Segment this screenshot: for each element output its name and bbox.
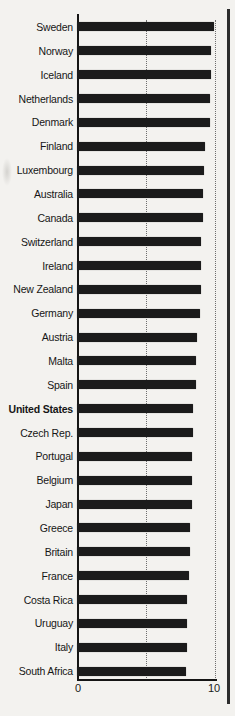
country-label: Finland	[0, 140, 77, 152]
chart-row: United States	[0, 397, 235, 421]
country-bar	[77, 404, 193, 413]
country-bar	[77, 166, 204, 175]
country-bar	[77, 46, 211, 55]
country-bar	[77, 94, 210, 103]
chart-row: Austria	[0, 325, 235, 349]
country-bar	[77, 333, 197, 342]
country-bar	[77, 667, 186, 676]
chart-row: Belgium	[0, 468, 235, 492]
country-label: United States	[0, 403, 77, 415]
country-bar	[77, 285, 201, 294]
country-label: South Africa	[0, 665, 77, 677]
chart-row: Sweden	[0, 15, 235, 39]
chart-row: Costa Rica	[0, 588, 235, 612]
country-bar	[77, 118, 210, 127]
country-label: Portugal	[0, 450, 77, 462]
country-bar	[77, 70, 211, 79]
country-label: Belgium	[0, 474, 77, 486]
country-bar	[77, 523, 190, 532]
chart-row: Finland	[0, 134, 235, 158]
country-label: Czech Rep.	[0, 427, 77, 439]
country-bar	[77, 643, 187, 652]
country-label: Uruguay	[0, 617, 77, 629]
country-label: Japan	[0, 498, 77, 510]
chart-row: Portugal	[0, 444, 235, 468]
chart-row: Greece	[0, 516, 235, 540]
country-label: Austria	[0, 331, 77, 343]
country-label: Canada	[0, 212, 77, 224]
country-label: Italy	[0, 641, 77, 653]
country-label: Luxembourg	[0, 164, 77, 176]
chart-row: Britain	[0, 540, 235, 564]
chart-row: Japan	[0, 492, 235, 516]
chart-row: Switzerland	[0, 230, 235, 254]
chart-row: Spain	[0, 373, 235, 397]
country-label: Norway	[0, 45, 77, 57]
x-axis-line	[77, 679, 217, 681]
country-bar	[77, 142, 205, 151]
bar-chart: Sweden Norway Iceland Netherlands Denmar…	[0, 0, 235, 716]
country-label: Denmark	[0, 116, 77, 128]
chart-row: Iceland	[0, 63, 235, 87]
country-bar	[77, 237, 201, 246]
country-label: Greece	[0, 522, 77, 534]
country-label: Netherlands	[0, 93, 77, 105]
chart-row: Italy	[0, 635, 235, 659]
country-bar	[77, 189, 203, 198]
country-bar	[77, 261, 201, 270]
chart-row: New Zealand	[0, 277, 235, 301]
x-tick-0: 0	[75, 682, 81, 694]
country-bar	[77, 213, 203, 222]
chart-row: Czech Rep.	[0, 421, 235, 445]
country-label: Sweden	[0, 21, 77, 33]
chart-row: France	[0, 564, 235, 588]
country-bar	[77, 428, 193, 437]
country-label: Costa Rica	[0, 594, 77, 606]
country-label: Spain	[0, 379, 77, 391]
country-bar	[77, 571, 189, 580]
country-bar	[77, 547, 190, 556]
country-label: Ireland	[0, 260, 77, 272]
x-tick-10: 10	[208, 682, 220, 694]
country-bar	[77, 452, 192, 461]
country-label: Australia	[0, 188, 77, 200]
chart-row: Denmark	[0, 110, 235, 134]
country-bar	[77, 356, 196, 365]
country-label: Iceland	[0, 69, 77, 81]
country-label: Malta	[0, 355, 77, 367]
chart-row: Germany	[0, 301, 235, 325]
page-edge-rule	[227, 9, 230, 704]
country-bar	[77, 500, 192, 509]
chart-row: Netherlands	[0, 87, 235, 111]
chart-row: Ireland	[0, 254, 235, 278]
country-label: Britain	[0, 546, 77, 558]
country-bar	[77, 619, 187, 628]
chart-row: Malta	[0, 349, 235, 373]
country-label: New Zealand	[0, 283, 77, 295]
chart-row: Norway	[0, 39, 235, 63]
chart-row: Luxembourg	[0, 158, 235, 182]
country-bar	[77, 22, 214, 31]
country-label: Germany	[0, 307, 77, 319]
country-bar	[77, 595, 187, 604]
country-label: Switzerland	[0, 236, 77, 248]
country-bar	[77, 380, 196, 389]
chart-row: Canada	[0, 206, 235, 230]
country-bar	[77, 476, 192, 485]
country-bar	[77, 309, 200, 318]
chart-row: Australia	[0, 182, 235, 206]
country-label: France	[0, 570, 77, 582]
chart-row: Uruguay	[0, 611, 235, 635]
chart-rows: Sweden Norway Iceland Netherlands Denmar…	[0, 15, 235, 683]
